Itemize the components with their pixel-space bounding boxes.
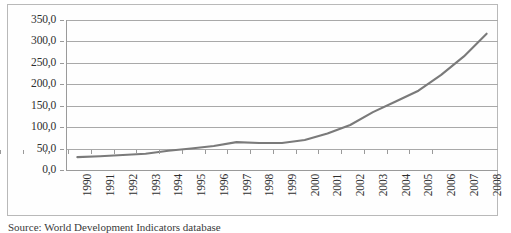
- x-axis-tick: [0, 150, 1, 154]
- y-axis-tick: [60, 127, 64, 128]
- x-axis-tick: [409, 150, 410, 154]
- x-axis-tick: [250, 150, 251, 154]
- x-axis-tick-label: 2008: [492, 174, 504, 196]
- x-axis-tick-label: 2007: [469, 174, 481, 196]
- x-axis-tick-label: 2000: [310, 174, 322, 196]
- y-axis-tick: [60, 20, 64, 21]
- plot-area: [66, 20, 498, 170]
- x-axis-tick-label: 1995: [196, 174, 208, 196]
- y-axis-tick: [60, 170, 64, 171]
- x-axis-tick-label: 2006: [446, 174, 458, 196]
- x-axis-tick: [136, 150, 137, 154]
- figure-caption: Source: World Development Indicators dat…: [8, 221, 468, 233]
- y-axis-tick-label: 350,0: [31, 14, 56, 26]
- x-axis-tick-label: 1999: [287, 174, 299, 196]
- x-axis-tick: [273, 150, 274, 154]
- x-axis-tick-label: 1992: [128, 174, 140, 196]
- x-axis-tick: [68, 150, 69, 154]
- x-axis-tick-label: 1991: [105, 174, 117, 196]
- x-axis-tick: [318, 150, 319, 154]
- x-axis-tick-label: 2004: [401, 174, 413, 196]
- x-axis-tick-label: 1994: [173, 174, 185, 196]
- x-axis-tick: [341, 150, 342, 154]
- x-axis-tick: [387, 150, 388, 154]
- x-axis-tick-label: 2001: [332, 174, 344, 196]
- x-axis-tick-label: 1996: [219, 174, 231, 196]
- chart-figure: 0,050,0100,0150,0200,0250,0300,0350,0 19…: [0, 0, 511, 233]
- x-axis-tick-label: 2005: [423, 174, 435, 196]
- x-axis-tick: [91, 150, 92, 154]
- x-axis-tick: [364, 150, 365, 154]
- x-axis-tick: [114, 150, 115, 154]
- x-axis-tick-label: 1997: [242, 174, 254, 196]
- x-axis-tick-label: 2003: [378, 174, 390, 196]
- x-axis-tick: [182, 150, 183, 154]
- x-axis-tick: [205, 150, 206, 154]
- x-axis-tick-label: 1993: [151, 174, 163, 196]
- y-axis-tick-label: 150,0: [31, 100, 56, 112]
- y-axis-tick: [60, 149, 64, 150]
- x-axis-line: [66, 170, 498, 171]
- x-axis-tick: [23, 150, 24, 154]
- x-axis-tick: [296, 150, 297, 154]
- x-axis-tick: [159, 150, 160, 154]
- y-axis-tick-label: 300,0: [31, 35, 56, 47]
- y-axis-tick: [60, 106, 64, 107]
- y-axis-labels: 0,050,0100,0150,0200,0250,0300,0350,0: [0, 0, 64, 190]
- data-series-line: [66, 20, 498, 170]
- y-axis-tick-label: 250,0: [31, 57, 56, 69]
- y-axis-tick-label: 100,0: [31, 121, 56, 133]
- y-axis-tick-label: 0,0: [42, 164, 56, 176]
- y-axis-tick: [60, 84, 64, 85]
- x-axis-tick: [227, 150, 228, 154]
- x-axis-tick: [432, 150, 433, 154]
- y-axis-tick: [60, 41, 64, 42]
- x-axis-tick: [45, 150, 46, 154]
- x-axis-tick-label: 1990: [82, 174, 94, 196]
- x-axis-tick-label: 2002: [355, 174, 367, 196]
- y-axis-tick: [60, 63, 64, 64]
- y-axis-tick-label: 200,0: [31, 78, 56, 90]
- x-axis-tick-label: 1998: [264, 174, 276, 196]
- x-axis-labels: 1990199119921993199419951996199719981999…: [66, 174, 498, 214]
